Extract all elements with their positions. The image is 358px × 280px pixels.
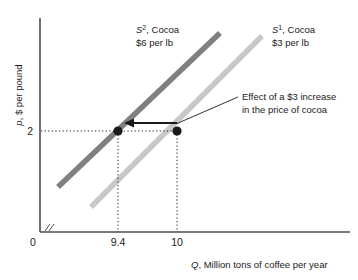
y-tick-label-2: 2 (27, 125, 33, 137)
x-axis-title-rest: , Million tons of coffee per year (198, 259, 327, 270)
x-tick-label-10: 10 (171, 236, 183, 248)
shift-annotation: Effect of a $3 increase in the price of … (242, 91, 336, 115)
svg-text:S1, Cocoa: S1, Cocoa (272, 24, 316, 36)
svg-text:S2, Cocoa: S2, Cocoa (136, 24, 180, 36)
curve-label-s1-rest: , Cocoa (282, 24, 315, 35)
y-axis-title: p, $ per pound (13, 64, 24, 126)
curve-label-s2: S2, Cocoa $6 per lb (136, 24, 180, 49)
svg-text:p, $ per pound: p, $ per pound (13, 64, 24, 126)
curve-label-s2-rest: , Cocoa (146, 24, 179, 35)
shift-annotation-line-1: Effect of a $3 increase (242, 91, 336, 102)
origin-label: 0 (30, 236, 36, 248)
svg-text:Q, Million tons of coffee per: Q, Million tons of coffee per year (191, 259, 328, 270)
x-tick-label-9-4: 9.4 (111, 236, 126, 248)
supply-curve-s1 (91, 36, 262, 207)
y-axis-title-rest: , $ per pound (13, 64, 24, 120)
chart-canvas: 2 0 9.4 10 p, $ per pound Q, Million ton… (0, 0, 358, 280)
supply-curve-s2 (58, 33, 220, 187)
curve-label-s1: S1, Cocoa $3 per lb (272, 24, 316, 49)
x-axis-title: Q, Million tons of coffee per year (191, 259, 328, 270)
supply-shift-figure: 2 0 9.4 10 p, $ per pound Q, Million ton… (0, 0, 358, 280)
point-s2 (113, 126, 122, 135)
shift-annotation-line-2: in the price of cocoa (242, 104, 328, 115)
curve-label-s1-price: $3 per lb (272, 37, 309, 48)
axis-break-icon (45, 224, 54, 231)
point-s1 (172, 126, 181, 135)
curve-label-s2-price: $6 per lb (136, 37, 173, 48)
